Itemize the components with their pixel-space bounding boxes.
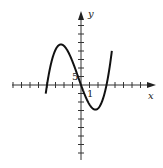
x-axis-label: x bbox=[148, 91, 154, 101]
y-tick-label: 5 bbox=[72, 72, 78, 82]
x-tick-label: 1 bbox=[87, 89, 93, 99]
y-axis-arrow-icon bbox=[78, 11, 84, 20]
cubic-curve bbox=[46, 44, 112, 109]
x-axis-arrow-icon bbox=[147, 82, 156, 88]
y-axis-label: y bbox=[88, 9, 94, 19]
cubic-graph bbox=[0, 0, 163, 168]
